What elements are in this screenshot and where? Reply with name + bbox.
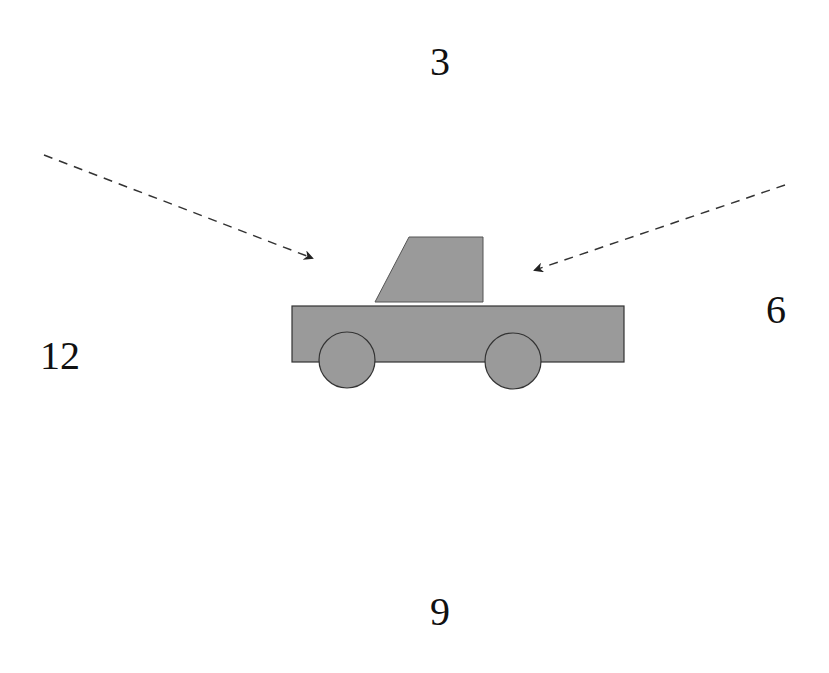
truck-wheel-rear bbox=[319, 332, 375, 388]
diagram-canvas bbox=[0, 0, 829, 673]
truck-wheel-front bbox=[485, 333, 541, 389]
arrow-left bbox=[44, 155, 312, 258]
truck-icon bbox=[292, 237, 624, 389]
arrow-right bbox=[535, 185, 785, 270]
truck-cab bbox=[375, 237, 483, 302]
